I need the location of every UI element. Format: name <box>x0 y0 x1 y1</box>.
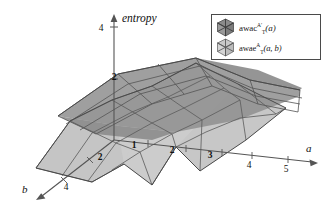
legend-label-awae-args: (a, b) <box>263 43 281 53</box>
b-axis-label: b <box>22 183 28 195</box>
b-tick-label-4: 4 <box>64 182 69 192</box>
a-tick-label-3: 3 <box>208 150 213 160</box>
entropy-axis-arrow <box>111 14 118 22</box>
entropy-tick-label-2: 2 <box>112 72 117 82</box>
surface-awac-upper <box>58 58 302 140</box>
legend: awacA′T(a) awaeAT(a, b) <box>211 14 321 60</box>
a-tick-label-4: 4 <box>247 160 252 170</box>
legend-label-awae-base: awae <box>239 43 256 53</box>
legend-entry-awac: awacA′T(a) <box>215 17 319 38</box>
legend-label-awae-sup: A <box>256 42 260 48</box>
a-tick-label-5: 5 <box>284 164 289 174</box>
b-tick-label-2: 2 <box>98 152 103 162</box>
legend-label-awac-base: awac <box>239 23 257 33</box>
legend-label-awac-args: (a) <box>265 23 275 33</box>
a-axis-arrow <box>310 159 319 166</box>
legend-label-awac: awacA′T(a) <box>239 23 276 33</box>
legend-swatch-awac <box>215 18 236 37</box>
legend-label-awae: awaeAT(a, b) <box>239 43 281 53</box>
legend-swatch-awae <box>215 38 236 57</box>
a-tick-label-1: 1 <box>132 140 137 150</box>
a-tick-label-2: 2 <box>170 145 175 155</box>
entropy-tick-label-4: 4 <box>99 23 104 33</box>
legend-entry-awae: awaeAT(a, b) <box>215 37 319 58</box>
a-axis-label: a <box>306 142 312 154</box>
entropy-axis-label: entropy <box>122 12 158 25</box>
legend-label-awac-sup: A′ <box>257 22 262 28</box>
